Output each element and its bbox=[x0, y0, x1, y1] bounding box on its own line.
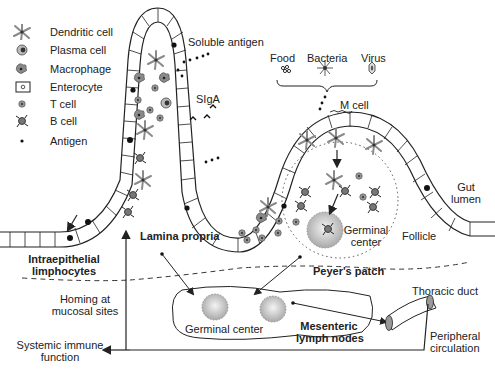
t-cell-icon bbox=[8, 96, 36, 112]
legend-item-enterocyte: Enterocyte bbox=[8, 79, 103, 95]
legend-item-b-cell: B cell bbox=[8, 113, 77, 129]
intraepithelial-lymphocytes bbox=[67, 42, 430, 241]
legend-item-t-cell: T cell bbox=[8, 96, 76, 112]
label-food: Food bbox=[270, 52, 295, 64]
label-gut-lumen: Gutlumen bbox=[446, 181, 486, 205]
label-follicle: Follicle bbox=[402, 230, 436, 242]
food-icon bbox=[281, 65, 290, 72]
siga-glyphs bbox=[190, 105, 216, 120]
label-ln-germinal-center: Germinal center bbox=[185, 323, 263, 335]
label-thoracic-duct: Thoracic duct bbox=[412, 285, 478, 297]
label-peripheral-circulation: Peripheralcirculation bbox=[430, 330, 480, 354]
antigen-icon bbox=[8, 133, 36, 149]
arrow-iel bbox=[68, 215, 77, 230]
legend-item-antigen: Antigen bbox=[8, 133, 87, 149]
macrophage-icon bbox=[8, 61, 36, 77]
brace bbox=[277, 80, 377, 92]
legend-item-plasma-cell: Plasma cell bbox=[8, 42, 106, 58]
ln-germinal-center-2 bbox=[260, 296, 286, 322]
plasma-cell-icon bbox=[8, 42, 36, 58]
label-systemic-immune-function: Systemic immunefunction bbox=[14, 339, 106, 363]
dendritic-cell-icon bbox=[8, 24, 36, 40]
antigen-dots bbox=[177, 53, 327, 164]
label-soluble-antigen: Soluble antigen bbox=[188, 36, 264, 48]
label-lamina-propria: Lamina propria bbox=[140, 230, 219, 242]
arrow-pp-to-ln bbox=[255, 257, 300, 294]
legend-item-dendritic-cell: Dendritic cell bbox=[8, 24, 113, 40]
legend-item-macrophage: Macrophage bbox=[8, 61, 111, 77]
b-cell-icon bbox=[8, 113, 36, 129]
thoracic-duct bbox=[386, 295, 437, 331]
label-mesenteric-lymph-nodes: Mesentericlymph nodes bbox=[296, 320, 362, 344]
label-m-cell: M cell bbox=[340, 99, 369, 111]
label-homing-mucosal-sites: Homing atmucosal sites bbox=[50, 293, 120, 317]
enterocyte-icon bbox=[8, 79, 36, 95]
label-bacteria: Bacteria bbox=[307, 52, 347, 64]
arrow-to-germinal-center bbox=[330, 194, 338, 213]
label-pp-germinal-center: Germinalcenter bbox=[341, 224, 391, 248]
ln-germinal-center-1 bbox=[202, 294, 228, 320]
label-virus: Virus bbox=[361, 52, 386, 64]
label-siga: SIgA bbox=[196, 93, 220, 105]
label-peyers-patch: Peyer's patch bbox=[313, 265, 384, 277]
label-intraepithelial-lymphocytes: Intraepitheliallimphocytes bbox=[24, 253, 104, 277]
